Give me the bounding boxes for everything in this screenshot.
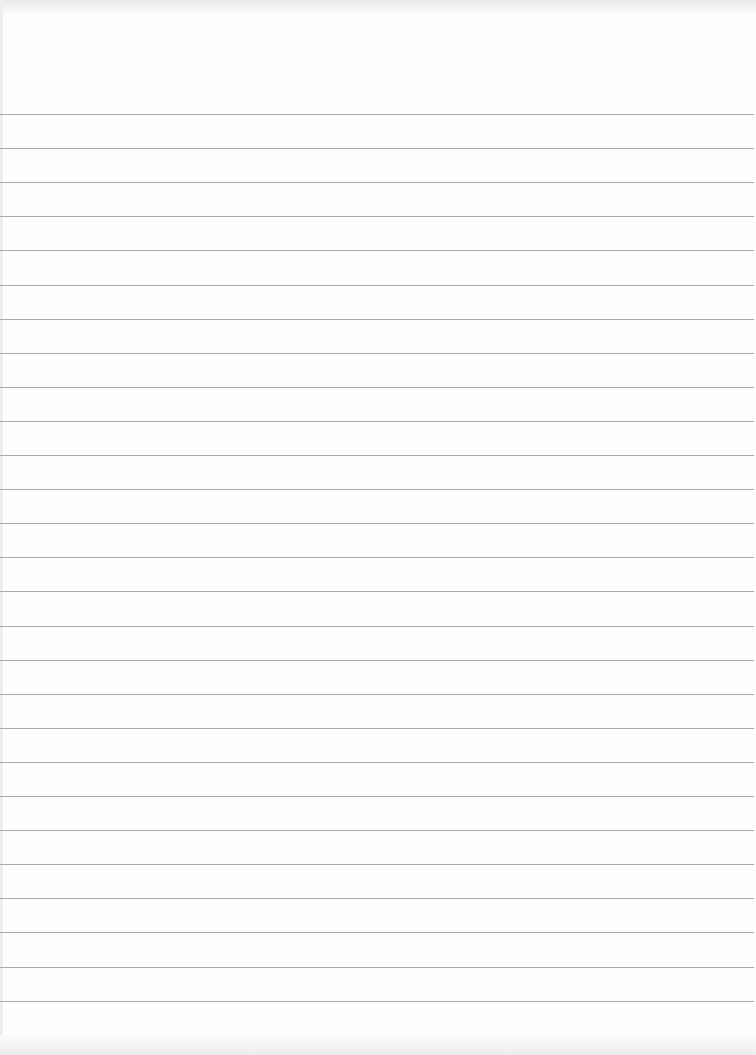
ruled-line: [0, 353, 754, 354]
ruled-line: [0, 660, 754, 661]
ruled-line: [0, 489, 754, 490]
ruled-line: [0, 898, 754, 899]
ruled-line: [0, 728, 754, 729]
ruled-line: [0, 967, 754, 968]
ruled-line: [0, 182, 754, 183]
ruled-line: [0, 830, 754, 831]
ruled-line: [0, 114, 754, 115]
ruled-line: [0, 557, 754, 558]
ruled-line: [0, 216, 754, 217]
ruled-line: [0, 148, 754, 149]
ruled-line: [0, 626, 754, 627]
ruled-line: [0, 1001, 754, 1002]
ruled-line: [0, 523, 754, 524]
ruled-line: [0, 285, 754, 286]
ruled-line: [0, 694, 754, 695]
ruled-line: [0, 932, 754, 933]
ruled-line: [0, 387, 754, 388]
ruled-line: [0, 455, 754, 456]
ruled-line: [0, 796, 754, 797]
ruled-line: [0, 762, 754, 763]
ruled-line: [0, 319, 754, 320]
bottom-edge-shadow: [0, 1035, 756, 1055]
ruled-line: [0, 421, 754, 422]
ruled-line: [0, 250, 754, 251]
ruled-line: [0, 864, 754, 865]
ruled-line: [0, 591, 754, 592]
ruled-lines: [0, 0, 756, 1055]
